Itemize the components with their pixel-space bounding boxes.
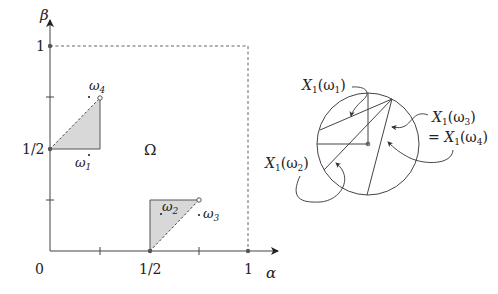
arrow-x1-w4 (388, 142, 453, 163)
svg-text:ω3: ω3 (203, 206, 220, 223)
x-axis-label: α (266, 264, 276, 282)
region-omega-label: Ω (144, 141, 156, 159)
svg-text:ω1: ω1 (75, 155, 91, 172)
circle-diagram: X1(ω1) X1(ω2) X1(ω3) = X1(ω4) (264, 77, 488, 202)
figure: β α 0 1/2 1 1/2 1 Ω ω4 ω1 ω2 ω3 (0, 0, 498, 294)
label-x1-w1: X1(ω1) (301, 77, 346, 95)
point-omega-4: ω4 (88, 78, 106, 98)
chord-x1-w2 (324, 99, 392, 170)
x-tick-half: 1/2 (139, 261, 162, 277)
y-tick-one: 1 (36, 38, 45, 54)
y-axis-label: β (39, 6, 49, 24)
origin-label: 0 (35, 261, 44, 277)
point-omega-1: ω1 (75, 154, 91, 172)
label-x1-w4: = X1(ω4) (428, 129, 488, 147)
label-x1-w2: X1(ω2) (264, 155, 309, 173)
y-tick-half: 1/2 (22, 141, 45, 157)
point-omega-3: ω3 (198, 206, 220, 223)
arrow-x1-w1 (351, 87, 367, 116)
chord-x1-w3 (367, 99, 392, 195)
chord-x1-w1 (320, 99, 392, 130)
x-tick-one: 1 (244, 261, 253, 277)
label-x1-w3: X1(ω3) (431, 109, 476, 127)
svg-text:ω4: ω4 (89, 78, 106, 95)
unit-square-diagram: β α 0 1/2 1 1/2 1 Ω ω4 ω1 ω2 ω3 (22, 6, 278, 282)
